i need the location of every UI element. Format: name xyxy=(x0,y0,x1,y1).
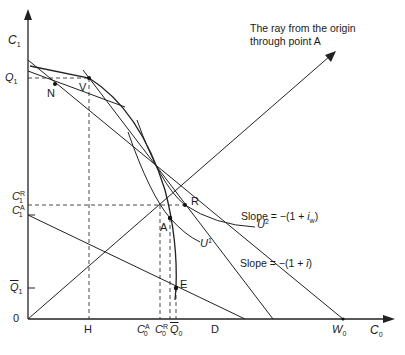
w0-label: W0 xyxy=(332,324,346,335)
c0a-label: CA0 xyxy=(137,324,148,335)
diagram-canvas xyxy=(0,0,405,355)
point-e-marker xyxy=(174,286,178,290)
point-r-label: R xyxy=(191,196,199,207)
production-curve xyxy=(30,66,176,300)
y-axis-label: C1 xyxy=(8,34,21,46)
ray-annotation-line2: through point A xyxy=(250,36,321,47)
x-axis-label: C0 xyxy=(370,324,383,336)
ray-annotation-line1: The ray from the origin xyxy=(250,23,356,34)
slope-ibar-annotation: Slope = −(1 + ī) xyxy=(240,258,312,269)
q0bar-label: Q0 xyxy=(170,324,182,335)
y-axis-arrow-icon xyxy=(24,9,32,20)
origin-label: 0 xyxy=(13,313,19,324)
c0r-label: CR0 xyxy=(155,324,166,335)
q1-label: Q1 xyxy=(5,72,17,83)
indifference-curve-u2 xyxy=(137,120,255,227)
upper-tangent-line xyxy=(28,71,125,107)
point-w0-marker xyxy=(341,317,344,320)
d-label: D xyxy=(211,324,219,335)
point-v-marker xyxy=(87,76,91,80)
ray-through-a xyxy=(28,56,330,319)
q1bar-label: Q1 xyxy=(10,282,22,293)
line-c1a-to-d xyxy=(28,215,245,319)
point-r-marker xyxy=(183,203,187,207)
point-a-marker xyxy=(168,216,172,220)
point-n-marker xyxy=(53,82,57,86)
point-v-label: V xyxy=(79,82,86,93)
point-a-label: A xyxy=(160,222,167,233)
c1r-label: CR1 xyxy=(12,191,23,202)
budget-line-ibar xyxy=(83,70,273,319)
x-axis-arrow-icon xyxy=(383,315,395,323)
point-e-label: E xyxy=(180,279,187,290)
u1-label: U1 xyxy=(200,238,212,249)
h-label: H xyxy=(84,324,92,335)
ray-arrow-icon xyxy=(325,51,336,62)
point-n-label: N xyxy=(47,88,55,99)
slope-iw-annotation: Slope = −(1 + iw) xyxy=(241,211,318,222)
c1a-label: CA1 xyxy=(12,205,23,216)
